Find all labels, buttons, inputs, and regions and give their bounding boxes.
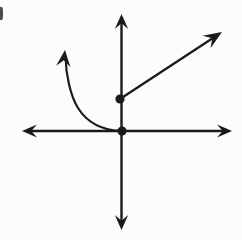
y-intercept-point [115, 94, 124, 103]
origin-point [117, 126, 126, 135]
linear-ray-line [120, 36, 216, 99]
coordinate-plane-graph [0, 0, 242, 240]
exponential-decay-curve [66, 57, 123, 131]
figure-container [0, 0, 242, 240]
linear-ray-arrowhead [202, 32, 222, 48]
exponential-curve-arrowhead [56, 50, 70, 67]
cropped-label-fragment [0, 7, 3, 20]
